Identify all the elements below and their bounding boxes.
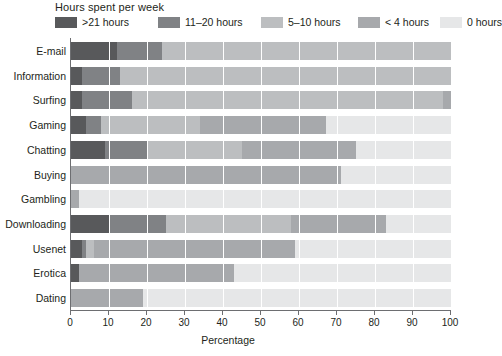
x-axis-tick <box>450 310 451 315</box>
y-axis-label: Gaming <box>29 116 66 134</box>
x-axis-tick <box>336 310 337 315</box>
bar-segment[interactable] <box>117 42 163 60</box>
legend-swatch-icon <box>55 17 77 28</box>
bar-segment[interactable] <box>79 190 451 208</box>
bar-segment[interactable] <box>71 264 79 282</box>
y-axis-label: Downloading <box>5 215 66 233</box>
legend-entry[interactable]: 5–10 hours <box>261 16 341 29</box>
grid-line <box>375 38 376 310</box>
y-axis-label: Gambling <box>21 190 66 208</box>
legend-swatch-icon <box>440 17 462 28</box>
legend: >21 hours11–20 hours5–10 hours< 4 hours0… <box>55 16 455 29</box>
x-axis-tick <box>70 310 71 315</box>
x-axis-tick-label: 70 <box>321 317 351 328</box>
bar-segment[interactable] <box>71 141 105 159</box>
x-axis-tick-label: 60 <box>283 317 313 328</box>
y-axis-label: Buying <box>34 166 66 184</box>
grid-line <box>299 38 300 310</box>
legend-swatch-icon <box>158 17 180 28</box>
plot-area <box>70 38 451 310</box>
bar-segment[interactable] <box>105 141 147 159</box>
bar-segment[interactable] <box>143 289 451 307</box>
legend-swatch-icon <box>261 17 283 28</box>
bar-segment[interactable] <box>71 166 341 184</box>
bar-segment[interactable] <box>109 215 166 233</box>
bar-segment[interactable] <box>71 240 82 258</box>
grid-line <box>109 38 110 310</box>
bar-segment[interactable] <box>234 264 451 282</box>
bar-segment[interactable] <box>200 116 325 134</box>
bar-segment[interactable] <box>71 215 109 233</box>
grid-line <box>451 38 452 310</box>
x-axis-title: Percentage <box>0 334 456 346</box>
legend-label: >21 hours <box>82 17 129 28</box>
bar-segment[interactable] <box>356 141 451 159</box>
bar-segment[interactable] <box>71 91 82 109</box>
bar-segment[interactable] <box>132 91 444 109</box>
grid-line <box>147 38 148 310</box>
x-axis-tick-label: 80 <box>359 317 389 328</box>
bar-segment[interactable] <box>71 116 86 134</box>
x-axis-tick <box>108 310 109 315</box>
grid-line <box>185 38 186 310</box>
bar-segment[interactable] <box>79 264 235 282</box>
legend-label: < 4 hours <box>385 17 429 28</box>
x-axis-tick-label: 40 <box>207 317 237 328</box>
x-axis-tick-label: 10 <box>93 317 123 328</box>
bar-segment[interactable] <box>120 67 451 85</box>
x-axis-tick <box>298 310 299 315</box>
bar-segment[interactable] <box>443 91 451 109</box>
bar-segment[interactable] <box>86 240 94 258</box>
legend-entry[interactable]: < 4 hours <box>358 16 429 29</box>
x-axis-tick <box>412 310 413 315</box>
legend-label: 0 hours <box>467 17 502 28</box>
legend-label: 5–10 hours <box>288 17 341 28</box>
y-axis-label: Chatting <box>27 141 66 159</box>
x-axis-tick <box>184 310 185 315</box>
grid-line <box>261 38 262 310</box>
bar-segment[interactable] <box>326 116 451 134</box>
bar-segment[interactable] <box>82 67 120 85</box>
bar-segment[interactable] <box>71 190 79 208</box>
x-axis-tick-label: 50 <box>245 317 275 328</box>
x-axis-tick-label: 100 <box>435 317 465 328</box>
bar-segment[interactable] <box>82 91 131 109</box>
x-axis-tick <box>222 310 223 315</box>
bar-segment[interactable] <box>386 215 451 233</box>
bar-segment[interactable] <box>291 215 386 233</box>
legend-entry[interactable]: 0 hours <box>440 16 502 29</box>
y-axis-label: Information <box>13 67 66 85</box>
x-axis-tick <box>374 310 375 315</box>
x-axis-tick <box>146 310 147 315</box>
bar-segment[interactable] <box>71 67 82 85</box>
legend-title: Hours spent per week <box>55 1 164 13</box>
bar-segment[interactable] <box>341 166 451 184</box>
y-axis-label: Surfing <box>33 91 66 109</box>
legend-entry[interactable]: 11–20 hours <box>158 16 243 29</box>
x-axis-tick-label: 20 <box>131 317 161 328</box>
bar-segment[interactable] <box>147 141 242 159</box>
bar-segment[interactable] <box>162 42 451 60</box>
bar-segment[interactable] <box>295 240 451 258</box>
bar-segment[interactable] <box>86 116 101 134</box>
x-axis-tick-label: 0 <box>55 317 85 328</box>
bar-segment[interactable] <box>94 240 295 258</box>
bar-segment[interactable] <box>71 289 143 307</box>
x-axis-tick-label: 90 <box>397 317 427 328</box>
x-axis-tick <box>260 310 261 315</box>
legend-entry[interactable]: >21 hours <box>55 16 129 29</box>
y-axis-line <box>70 38 71 310</box>
grid-line <box>223 38 224 310</box>
legend-label: 11–20 hours <box>185 17 243 28</box>
y-axis-label: Usenet <box>33 240 66 258</box>
grid-line <box>413 38 414 310</box>
y-axis-label: E-mail <box>36 42 66 60</box>
grid-line <box>337 38 338 310</box>
y-axis-label: Dating <box>36 289 66 307</box>
y-axis-label: Erotica <box>33 264 66 282</box>
x-axis-tick-label: 30 <box>169 317 199 328</box>
legend-swatch-icon <box>358 17 380 28</box>
